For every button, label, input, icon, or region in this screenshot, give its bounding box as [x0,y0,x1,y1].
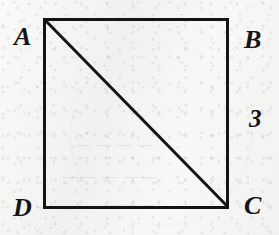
side-length-label-bc: 3 [249,106,262,131]
vertex-label-a: A [14,24,31,50]
vertex-label-d: D [13,195,32,221]
geometry-figure: — — — — —— — —— — — — A B C D 3 [0,0,279,235]
vertex-label-b: B [244,27,261,53]
diagonal-line-ac [45,20,228,207]
square-abcd [45,20,229,208]
vertex-label-c: C [244,193,261,219]
figure-canvas [0,0,279,235]
